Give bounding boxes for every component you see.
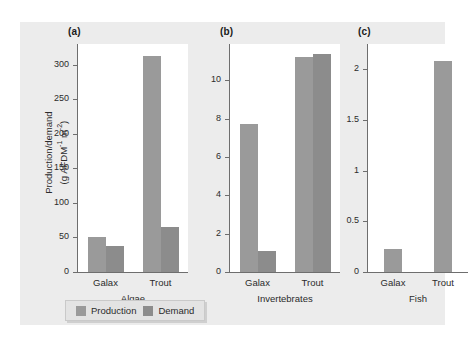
y-axis-line	[77, 44, 78, 272]
bar-production	[143, 56, 161, 272]
y-axis-tick	[73, 272, 77, 273]
y-axis-tick-label: 8	[191, 113, 221, 123]
y-axis-tick-label: 4	[191, 189, 221, 199]
plot-area-fish	[368, 44, 468, 272]
y-axis-tick	[73, 203, 77, 204]
panel-label-b: (b)	[220, 26, 233, 37]
y-axis-tick-label: 0	[329, 266, 359, 276]
legend-label-production: Production	[91, 305, 136, 316]
group-title-fish: Fish	[368, 293, 468, 304]
panel-label-a: (a)	[68, 26, 81, 37]
y-axis-tick	[73, 134, 77, 135]
y-axis-line	[229, 44, 230, 272]
y-axis-tick-label: 0	[191, 266, 221, 276]
y-axis-tick-label: 10	[191, 74, 221, 84]
x-axis-tick-label: Galax	[76, 277, 136, 288]
y-axis-tick-label: 250	[39, 93, 69, 103]
y-axis-tick	[363, 221, 367, 222]
bar-production	[88, 237, 106, 272]
figure-canvas: Production/demand (g AFDM-1 m-2) (a) Alg…	[20, 22, 445, 325]
x-axis-line	[367, 272, 468, 273]
legend-swatch-demand-icon	[143, 306, 153, 316]
legend-item-production: Production	[76, 305, 136, 316]
y-axis-tick	[225, 195, 229, 196]
bar-group	[88, 44, 124, 272]
x-axis-tick-label: Galax	[228, 277, 288, 288]
y-axis-tick	[73, 99, 77, 100]
y-axis-tick	[363, 171, 367, 172]
legend-swatch-production-icon	[76, 306, 86, 316]
y-axis-tick	[225, 80, 229, 81]
y-axis-tick	[225, 157, 229, 158]
y-axis-tick-label: 0	[39, 266, 69, 276]
y-axis-tick	[73, 65, 77, 66]
y-axis-tick-label: 1.5	[329, 114, 359, 124]
y-axis-tick-label: 50	[39, 231, 69, 241]
bar-demand	[161, 227, 179, 272]
y-axis-tick	[225, 272, 229, 273]
panel-fish: (c) Fish 00.511.52GalaxTrout	[320, 22, 472, 325]
bar-group	[240, 44, 276, 272]
x-axis-tick-label: Trout	[413, 277, 472, 288]
y-axis-tick	[363, 120, 367, 121]
y-axis-tick	[225, 234, 229, 235]
x-axis-line	[77, 272, 188, 273]
y-axis-tick-label: 150	[39, 162, 69, 172]
bar-production	[240, 124, 258, 272]
y-axis-tick-label: 300	[39, 59, 69, 69]
y-axis-line	[367, 44, 368, 272]
y-axis-tick	[363, 69, 367, 70]
panel-label-c: (c)	[358, 26, 371, 37]
y-axis-tick-label: 1	[329, 165, 359, 175]
y-axis-tick-label: 100	[39, 197, 69, 207]
bar-production	[434, 61, 452, 272]
y-axis-tick-label: 2	[191, 228, 221, 238]
legend-label-demand: Demand	[158, 305, 194, 316]
bar-demand	[258, 251, 276, 272]
y-axis-tick	[73, 168, 77, 169]
y-axis-tick-label: 200	[39, 128, 69, 138]
y-axis-tick	[73, 237, 77, 238]
bar-production	[384, 249, 402, 272]
legend-item-demand: Demand	[143, 305, 194, 316]
y-axis-tick-label: 2	[329, 63, 359, 73]
bar-production	[295, 57, 313, 272]
y-axis-tick	[363, 272, 367, 273]
bar-demand	[106, 246, 124, 272]
y-axis-tick-label: 0.5	[329, 215, 359, 225]
y-axis-tick-label: 6	[191, 151, 221, 161]
bar-group	[143, 44, 179, 272]
bar-group	[384, 44, 402, 272]
y-axis-tick	[225, 119, 229, 120]
bar-group	[434, 44, 452, 272]
legend: Production Demand	[65, 300, 205, 321]
